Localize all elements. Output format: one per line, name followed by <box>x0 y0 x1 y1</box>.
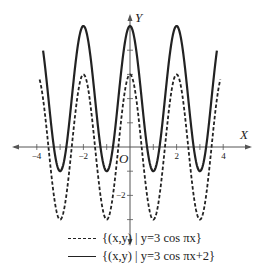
legend-label-solid: {(x,y) | y=3 cos πx+2} <box>102 249 215 264</box>
x-tick-label: −4 <box>32 151 42 161</box>
dashed-line-swatch <box>68 238 96 239</box>
x-axis-label: X <box>239 127 249 142</box>
solid-line-swatch <box>68 256 96 257</box>
x-axis-left-arrow-icon <box>12 145 19 150</box>
x-axis-right-arrow-icon <box>245 145 252 150</box>
y-axis-label: Y <box>135 10 144 25</box>
x-tick-label: 4 <box>221 151 226 161</box>
x-tick-label: 2 <box>175 151 180 161</box>
axes <box>12 14 252 246</box>
origin-label: O <box>119 151 129 166</box>
x-tick-label: −2 <box>78 151 88 161</box>
y-axis-up-arrow-icon <box>128 14 133 21</box>
y-tick-label: −2 <box>116 190 126 200</box>
legend-label-dashed: {(x,y) | y=3 cos πx} <box>102 231 202 246</box>
legend-item-solid: {(x,y) | y=3 cos πx+2} <box>68 249 215 264</box>
legend-item-dashed: {(x,y) | y=3 cos πx} <box>68 231 202 246</box>
